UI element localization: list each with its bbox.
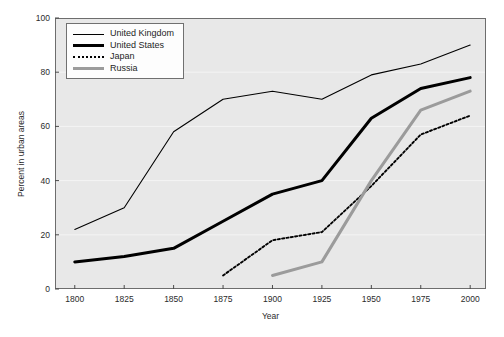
- legend: United Kingdom United States Japan Russi…: [66, 23, 184, 79]
- line-swatch-icon: [73, 52, 104, 62]
- gridlines: [56, 72, 485, 235]
- series-lines: [75, 45, 470, 275]
- y-tick-label: 80: [20, 67, 50, 77]
- figure: 020406080100 180018251850187519001925195…: [0, 0, 504, 337]
- x-tick-label: 1925: [302, 294, 342, 304]
- y-tick-label: 20: [20, 230, 50, 240]
- line-swatch-icon: [73, 40, 104, 50]
- x-tick-label: 1875: [203, 294, 243, 304]
- legend-item-label: Japan: [110, 51, 135, 63]
- legend-item-united-kingdom: United Kingdom: [73, 28, 174, 40]
- y-tick-label: 100: [20, 13, 50, 23]
- legend-item-japan: Japan: [73, 51, 174, 63]
- x-tick-label: 1900: [252, 294, 292, 304]
- line-swatch-icon: [73, 29, 104, 39]
- y-tick-label: 0: [20, 284, 50, 294]
- legend-item-united-states: United States: [73, 40, 174, 52]
- line-swatch-icon: [73, 63, 104, 73]
- legend-item-label: United States: [110, 40, 164, 52]
- y-axis-title: Percent in urban areas: [16, 111, 26, 197]
- x-axis-title: Year: [221, 311, 321, 321]
- x-tick-label: 1850: [154, 294, 194, 304]
- legend-item-label: Russia: [110, 63, 138, 75]
- legend-item-russia: Russia: [73, 63, 174, 75]
- x-tick-label: 1825: [104, 294, 144, 304]
- x-tick-label: 2000: [450, 294, 490, 304]
- figure-caption: [6, 329, 498, 337]
- x-tick-label: 1800: [55, 294, 95, 304]
- x-tick-label: 1975: [401, 294, 441, 304]
- x-tick-label: 1950: [351, 294, 391, 304]
- legend-item-label: United Kingdom: [110, 28, 174, 40]
